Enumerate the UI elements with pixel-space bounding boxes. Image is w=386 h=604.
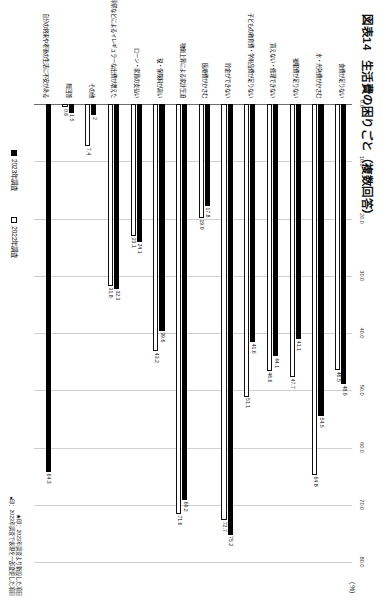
category-label: 子どもの教育費・学用品費が足りない bbox=[247, 13, 252, 98]
rotated-figure-canvas: 図表14生活費の困りごと（複数回答） （%） 0.010.020.030.040… bbox=[0, 0, 386, 604]
bar-value-2023: 24.1 bbox=[137, 243, 142, 253]
category-label: 医療費がかさむ bbox=[202, 63, 207, 98]
bar-value-2022: 43.2 bbox=[153, 353, 158, 363]
category-label: 貯金ができない bbox=[224, 63, 229, 98]
unit-label: （%） bbox=[348, 578, 358, 598]
x-axis-tick-label: 20.0 bbox=[359, 213, 365, 224]
legend-swatch-icon bbox=[12, 150, 18, 156]
category-label: 物価上昇による家計圧迫 bbox=[179, 43, 184, 98]
bar-value-2023: 75.2 bbox=[228, 536, 233, 546]
x-axis-tick-label: 0.0 bbox=[359, 100, 365, 108]
bar-2022 bbox=[108, 104, 113, 286]
bar-2023 bbox=[46, 104, 51, 472]
category-label: 買えない・修理できない bbox=[270, 43, 275, 98]
bar-value-2023: 41.1 bbox=[296, 341, 301, 351]
gridline bbox=[34, 219, 352, 220]
bar-2022 bbox=[244, 104, 249, 397]
bar-2023 bbox=[205, 104, 210, 206]
footnote-line: ★印：2023年調査より新設した項目 bbox=[15, 496, 22, 596]
bar-2023 bbox=[91, 104, 96, 115]
bar-2022 bbox=[267, 104, 272, 371]
gridline bbox=[34, 104, 352, 105]
bar-value-2023: 17.8 bbox=[205, 207, 210, 217]
bar-2023 bbox=[250, 104, 255, 342]
gridline bbox=[34, 562, 352, 563]
bar-value-2022: 19.9 bbox=[199, 219, 204, 229]
bar-value-2023: 69.2 bbox=[182, 502, 187, 512]
x-axis-tick-label: 80.0 bbox=[359, 557, 365, 568]
x-axis-tick-label: 40.0 bbox=[359, 328, 365, 339]
category-label: 冠婚葬祭などによるイレギュラーな出費が増えた bbox=[111, 0, 116, 98]
bar-value-2023: 2 bbox=[91, 117, 96, 120]
gridline bbox=[34, 448, 352, 449]
bar-2022 bbox=[131, 104, 136, 236]
gridline bbox=[34, 333, 352, 334]
category-label: 水・光熱費がかさむ bbox=[315, 53, 320, 98]
gridline bbox=[34, 390, 352, 391]
bar-2022 bbox=[290, 104, 295, 377]
bar-value-2023: 54.5 bbox=[318, 418, 323, 428]
bar-value-2022: 0.6 bbox=[62, 109, 67, 116]
category-label: 税・保険料が高い bbox=[156, 58, 161, 98]
bar-2022 bbox=[176, 104, 181, 514]
x-axis-tick-label: 70.0 bbox=[359, 499, 365, 510]
plot-area: 0.010.020.030.040.050.060.070.080.0食費が足り… bbox=[34, 104, 352, 562]
bar-2023 bbox=[114, 104, 119, 289]
bar-2022 bbox=[221, 104, 226, 520]
bar-value-2022: 7.4 bbox=[85, 148, 90, 155]
footnote-line: ●印：2023年調査で表現を一部変更した項目 bbox=[8, 496, 15, 596]
category-label: ローン・家賃の支払い bbox=[134, 48, 139, 98]
bar-2023 bbox=[228, 104, 233, 535]
bar-value-2022: 46.5 bbox=[335, 372, 340, 382]
legend-label: 2022年調査 bbox=[10, 226, 19, 258]
bar-value-2022: 46.6 bbox=[267, 372, 272, 382]
figure-page: 図表14生活費の困りごと（複数回答） （%） 0.010.020.030.040… bbox=[0, 0, 386, 604]
bar-2022 bbox=[335, 104, 340, 370]
bar-2023 bbox=[182, 104, 187, 500]
bar-value-2022: 23.1 bbox=[131, 238, 136, 248]
bar-2022 bbox=[62, 104, 67, 107]
legend-label: 2023年調査 bbox=[10, 159, 19, 191]
bar-value-2022: 71.6 bbox=[176, 515, 181, 525]
bar-2022 bbox=[199, 104, 204, 218]
bar-2023 bbox=[273, 104, 278, 356]
gridline bbox=[34, 276, 352, 277]
legend-item[interactable]: 2023年調査 bbox=[10, 150, 19, 191]
bar-value-2022: 47.7 bbox=[290, 379, 295, 389]
category-label: 自分の将来や老後の生活に不安がある bbox=[43, 13, 48, 98]
bar-2022 bbox=[153, 104, 158, 351]
bar-value-2023: 48.9 bbox=[341, 385, 346, 395]
bar-value-2022: 64.8 bbox=[312, 476, 317, 486]
chart-legend: 2023年調査2022年調査 bbox=[10, 150, 19, 258]
category-label: 無回答 bbox=[65, 83, 70, 98]
bar-chart-figure: 図表14生活費の困りごと（複数回答） （%） 0.010.020.030.040… bbox=[0, 0, 386, 604]
bar-2023 bbox=[296, 104, 301, 339]
bar-2023 bbox=[159, 104, 164, 331]
bar-2022 bbox=[85, 104, 90, 146]
bar-value-2023: 41.6 bbox=[250, 344, 255, 354]
figure-title: 図表14生活費の困りごと（複数回答） bbox=[360, 14, 376, 221]
figure-number: 図表14 bbox=[361, 14, 373, 51]
category-label: その他 bbox=[88, 83, 93, 98]
category-label: 被服費が足りない bbox=[293, 58, 298, 98]
x-axis-tick-label: 30.0 bbox=[359, 270, 365, 281]
bar-2023 bbox=[341, 104, 346, 384]
footnotes: ★印：2023年調査より新設した項目●印：2023年調査で表現を一部変更した項目 bbox=[8, 496, 22, 596]
bar-value-2022: 31.8 bbox=[108, 288, 113, 298]
bar-value-2023: 64.3 bbox=[46, 474, 51, 484]
bar-value-2023: 39.6 bbox=[159, 332, 164, 342]
bar-value-2022: 51.1 bbox=[244, 398, 249, 408]
gridline bbox=[34, 161, 352, 162]
gridline bbox=[34, 505, 352, 506]
bar-2023 bbox=[69, 104, 74, 113]
category-label: 食費が足りない bbox=[338, 63, 343, 98]
x-axis-tick-label: 10.0 bbox=[359, 156, 365, 167]
bar-2023 bbox=[137, 104, 142, 242]
legend-item[interactable]: 2022年調査 bbox=[10, 217, 19, 258]
bar-value-2023: 1.5 bbox=[69, 114, 74, 121]
bar-value-2022: 72.7 bbox=[221, 522, 226, 532]
bar-2023 bbox=[318, 104, 323, 416]
bar-value-2023: 32.3 bbox=[114, 290, 119, 300]
x-axis-tick-label: 50.0 bbox=[359, 385, 365, 396]
x-axis-tick-label: 60.0 bbox=[359, 442, 365, 453]
